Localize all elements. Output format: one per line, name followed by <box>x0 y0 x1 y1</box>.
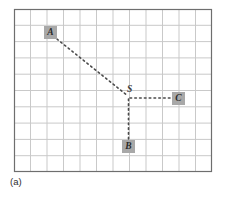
figure-caption: (a) <box>10 176 22 187</box>
node-a: A <box>44 26 57 39</box>
grid-diagram <box>0 0 227 199</box>
node-s-label: S <box>127 84 132 94</box>
node-a-label: A <box>47 28 53 38</box>
node-c-label: C <box>175 94 181 104</box>
node-b-label: B <box>125 142 131 152</box>
figure-container: A S C B (a) <box>0 0 227 199</box>
node-b: B <box>122 140 135 153</box>
node-s: S <box>127 85 132 95</box>
node-c: C <box>172 92 185 105</box>
